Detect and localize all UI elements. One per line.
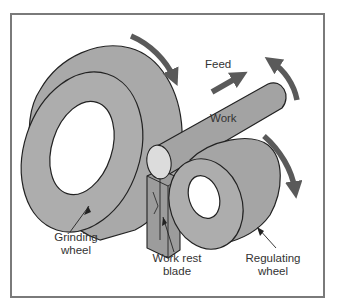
label-grinding-wheel-1: Grinding bbox=[54, 231, 97, 243]
label-feed: Feed bbox=[205, 58, 231, 70]
label-work-rest-2: blade bbox=[163, 265, 191, 277]
label-work: Work bbox=[210, 112, 237, 124]
label-work-rest-1: Work rest bbox=[153, 252, 203, 264]
centerless-grinding-diagram: Feed Work Grinding wheel Work rest blade… bbox=[0, 0, 338, 305]
label-regulating-wheel-2: wheel bbox=[257, 265, 288, 277]
label-regulating-wheel-1: Regulating bbox=[246, 252, 301, 264]
label-grinding-wheel-2: wheel bbox=[60, 244, 91, 256]
